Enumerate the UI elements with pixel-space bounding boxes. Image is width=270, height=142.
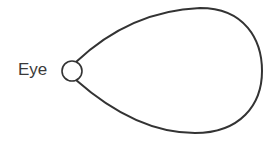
teardrop-field-outline xyxy=(76,8,262,133)
eye-label: Eye xyxy=(18,60,47,80)
eye-circle xyxy=(62,61,82,81)
visual-field-diagram: Eye xyxy=(0,0,270,142)
